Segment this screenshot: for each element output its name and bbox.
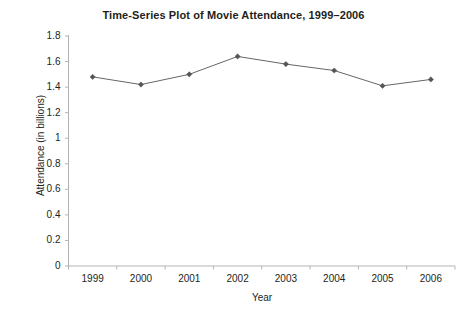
x-tick-label: 2006 — [401, 274, 461, 284]
data-point-markers — [90, 54, 433, 89]
data-point-marker — [138, 82, 143, 87]
y-tick-label: 0 — [17, 261, 61, 271]
data-point-marker — [428, 77, 433, 82]
data-point-marker — [332, 68, 337, 73]
data-series-line — [93, 56, 431, 85]
y-tick-label: 0.4 — [17, 210, 61, 220]
axis-tick-marks — [65, 36, 455, 270]
y-tick-label: 1.2 — [17, 108, 61, 118]
axis-lines — [69, 35, 456, 266]
y-tick-label: 0.6 — [17, 184, 61, 194]
data-point-marker — [283, 62, 288, 67]
chart-figure: Time-Series Plot of Movie Attendance, 19… — [0, 0, 467, 318]
y-tick-label: 1 — [17, 133, 61, 143]
y-tick-label: 0.8 — [17, 159, 61, 169]
y-tick-label: 1.4 — [17, 82, 61, 92]
data-point-marker — [235, 54, 240, 59]
plot-area — [0, 0, 467, 318]
y-tick-label: 1.6 — [17, 57, 61, 67]
data-point-marker — [90, 74, 95, 79]
y-tick-label: 0.2 — [17, 235, 61, 245]
y-tick-label: 1.8 — [17, 31, 61, 41]
data-point-marker — [380, 83, 385, 88]
data-point-marker — [187, 72, 192, 77]
